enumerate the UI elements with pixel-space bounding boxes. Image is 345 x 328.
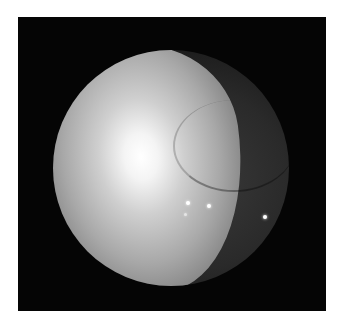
light-reflection: [263, 215, 267, 219]
tissue-fold: [173, 100, 289, 192]
light-reflection: [186, 201, 190, 205]
light-reflection: [184, 213, 187, 216]
light-reflection: [207, 204, 211, 208]
endoscope-view: [53, 50, 289, 286]
